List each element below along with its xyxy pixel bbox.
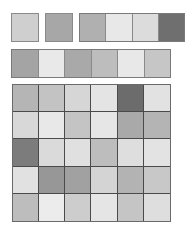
grid-swatch-r4-c2 <box>39 167 65 194</box>
grid-swatch-r4-c1 <box>13 167 39 194</box>
grid-swatch-r1-c4 <box>91 85 117 112</box>
grid-swatch-r4-c5 <box>118 167 144 194</box>
grid-swatch-r3-c2 <box>39 139 65 166</box>
grid-swatch-r2-c4 <box>91 112 117 139</box>
grid-swatch-r3-c1 <box>13 139 39 166</box>
grid-swatch-r1-c1 <box>13 85 39 112</box>
grid-swatch-r2-c2 <box>39 112 65 139</box>
grid-swatch-r5-c6 <box>144 194 170 221</box>
grid-swatch-r4-c4 <box>91 167 117 194</box>
row-b-swatch-3 <box>64 50 91 77</box>
grid-swatch-r3-c3 <box>65 139 91 166</box>
grid-swatch-r2-c5 <box>118 112 144 139</box>
color-swatch-single-2 <box>45 13 73 42</box>
row-b-swatch-4 <box>91 50 118 77</box>
grid-swatch-r3-c4 <box>91 139 117 166</box>
grid-swatch-r2-c1 <box>13 112 39 139</box>
grid-swatch-r1-c6 <box>144 85 170 112</box>
grid-swatch-r3-c5 <box>118 139 144 166</box>
row-b-swatch-2 <box>38 50 65 77</box>
grid-swatch-r1-c2 <box>39 85 65 112</box>
grid-swatch-r4-c3 <box>65 167 91 194</box>
row-b-swatch-5 <box>117 50 144 77</box>
grid-swatch-r1-c3 <box>65 85 91 112</box>
grid-swatch-r1-c5 <box>118 85 144 112</box>
grid-swatch-r4-c6 <box>144 167 170 194</box>
row-b-strip <box>11 49 171 78</box>
grid-swatch-r5-c3 <box>65 194 91 221</box>
row-a-swatch-4 <box>158 14 184 41</box>
grid-swatch-r3-c6 <box>144 139 170 166</box>
grid-swatch-r5-c1 <box>13 194 39 221</box>
grid-swatch-r5-c4 <box>91 194 117 221</box>
row-b-swatch-6 <box>144 50 171 77</box>
grid-swatch-r5-c2 <box>39 194 65 221</box>
grid-swatch-r5-c5 <box>118 194 144 221</box>
row-a-swatch-3 <box>132 14 158 41</box>
color-swatch-single-1 <box>11 13 39 42</box>
grid-swatch-r2-c6 <box>144 112 170 139</box>
row-b-swatch-1 <box>12 50 38 77</box>
row-a-strip <box>79 13 185 42</box>
grid-swatch-r2-c3 <box>65 112 91 139</box>
row-a-swatch-1 <box>80 14 105 41</box>
swatch-canvas <box>0 0 193 234</box>
row-a-swatch-2 <box>105 14 131 41</box>
swatch-grid <box>12 84 171 222</box>
